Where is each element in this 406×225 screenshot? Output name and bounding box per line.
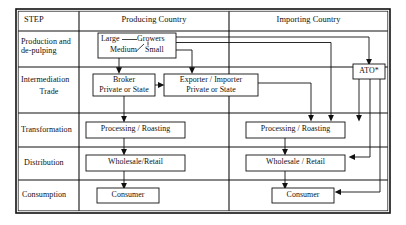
broker-label-line1: Broker [93,76,155,84]
wholesale-producing-label: Wholesale/Retail [86,158,185,166]
consumer-producing-label: Consumer [97,191,159,199]
wholesale-importing-label: Wholesale / Retail [246,158,345,166]
processing-importing-label: Processing / Roasting [246,125,345,133]
step-label-consumption: Consumption [22,191,66,199]
processing-to-wholesale-arrows [124,138,285,152]
broker-label-line2: Private or State [91,86,157,94]
growers-label-small: Small [145,46,164,54]
table-grid [16,9,390,213]
step-label-distribution: Distribution [24,159,64,167]
step-label-production: Production and [21,38,71,46]
ato-label: ATO* [353,67,385,75]
column-header-importing-country: Importing Country [229,16,388,25]
step-label-intermediation-line2: Trade [19,88,79,96]
wholesale-to-consumer-arrows [124,171,285,186]
consumer-importing-label: Consumer [272,191,334,199]
column-header-producing-country: Producing Country [79,16,229,25]
exporter-label-line1: Exporter / Importer [164,76,258,84]
column-header-step: STEP [24,16,44,25]
growers-label-large: Large [101,35,120,43]
diagram-canvas: STEP Producing Country Importing Country… [0,0,406,225]
step-label-transformation: Transformation [21,126,72,134]
step-label-intermediation: Intermediation [21,76,69,84]
growers-label-growers: Growers [137,35,165,43]
step-label-production-line2: de-pulping [21,47,57,55]
growers-label-medium: Medium [110,46,137,54]
processing-producing-label: Processing / Roasting [86,125,185,133]
exporter-label-line2: Private or State [164,86,258,94]
